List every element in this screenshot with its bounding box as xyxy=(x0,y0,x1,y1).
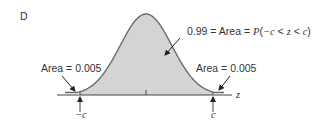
eq-sign: = xyxy=(241,25,253,37)
eq-sign: = xyxy=(207,25,218,37)
neg-c: −c xyxy=(263,26,275,37)
lt-sign: < xyxy=(275,25,287,37)
normal-curve-diagram: D z −c c Area = 0.005 Area = 0.005 0.99 … xyxy=(0,0,334,125)
center-area-value: 0.99 xyxy=(187,25,208,37)
right-bound-label: c xyxy=(211,109,216,120)
right-tail-arrow-icon xyxy=(219,76,230,90)
right-tail-label: Area = 0.005 xyxy=(196,62,257,74)
paren: ) xyxy=(307,25,311,37)
center-area-annotation: 0.99 = Area = P(−c < z < c) xyxy=(187,25,311,37)
left-tail-arrow-icon xyxy=(62,76,75,91)
z-axis-label: z xyxy=(235,89,240,100)
panel-label: D xyxy=(20,10,28,22)
left-tail-label: Area = 0.005 xyxy=(41,62,102,74)
lt-sign: < xyxy=(291,25,303,37)
left-bound-label: −c xyxy=(75,109,87,120)
area-word: Area xyxy=(219,25,241,37)
